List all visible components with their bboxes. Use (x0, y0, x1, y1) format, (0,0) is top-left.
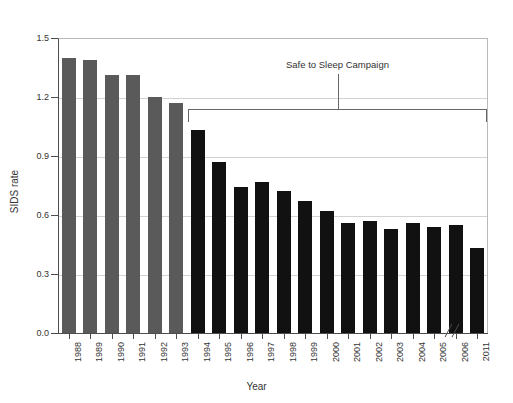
x-tick-mark (112, 333, 113, 339)
x-tick-label: 1997 (266, 342, 276, 362)
x-tick-mark (327, 333, 328, 339)
bar (62, 58, 76, 333)
x-tick-label: 2001 (352, 342, 362, 362)
y-tick-mark (51, 38, 58, 39)
bar (169, 103, 183, 333)
gridline (59, 216, 487, 217)
bar (148, 97, 162, 333)
x-tick-label: 1993 (180, 342, 190, 362)
x-tick-label: 2005 (438, 342, 448, 362)
bar (470, 248, 484, 333)
y-tick-label: 1.5 (5, 33, 49, 43)
x-tick-mark (370, 333, 371, 339)
x-tick-label: 1991 (137, 342, 147, 362)
y-tick-label: 0.0 (5, 328, 49, 338)
bar (320, 211, 334, 333)
x-tick-mark (284, 333, 285, 339)
x-tick-mark (69, 333, 70, 339)
x-tick-label: 2004 (417, 342, 427, 362)
bar (341, 223, 355, 333)
x-tick-mark (241, 333, 242, 339)
gridline (59, 98, 487, 99)
x-tick-label: 2003 (395, 342, 405, 362)
campaign-annotation-stem (338, 74, 339, 109)
x-tick-mark (176, 333, 177, 339)
x-tick-label: 1990 (116, 342, 126, 362)
x-tick-label: 1988 (73, 342, 83, 362)
bar (105, 75, 119, 333)
caption-remnant (10, 0, 410, 5)
bar (449, 225, 463, 333)
x-tick-label: 1995 (223, 342, 233, 362)
y-axis-label: SIDS rate (9, 142, 20, 242)
gridline (59, 157, 487, 158)
x-tick-mark (133, 333, 134, 339)
x-tick-label: 2002 (374, 342, 384, 362)
bar (83, 60, 97, 333)
y-tick-mark (51, 156, 58, 157)
bar (384, 229, 398, 333)
y-tick-label: 1.2 (5, 92, 49, 102)
y-tick-mark (51, 333, 58, 334)
x-tick-mark (348, 333, 349, 339)
x-tick-label: 1994 (202, 342, 212, 362)
bar (406, 223, 420, 333)
campaign-annotation-label: Safe to Sleep Campaign (213, 59, 463, 70)
x-tick-label: 1998 (288, 342, 298, 362)
x-tick-mark (155, 333, 156, 339)
x-tick-label: 1992 (159, 342, 169, 362)
y-tick-mark (51, 274, 58, 275)
y-tick-mark (51, 97, 58, 98)
bar (255, 182, 269, 333)
x-tick-mark (413, 333, 414, 339)
x-tick-label: 1999 (309, 342, 319, 362)
bar (363, 221, 377, 333)
bar (298, 201, 312, 333)
bar (126, 75, 140, 333)
x-tick-mark (219, 333, 220, 339)
bar (191, 130, 205, 333)
x-tick-label: 1989 (94, 342, 104, 362)
x-tick-label: 2011 (481, 342, 491, 361)
x-tick-mark (391, 333, 392, 339)
bar (212, 162, 226, 333)
sids-rate-bar-chart: 0.00.30.60.91.21.5 SIDS rate 19881989199… (0, 0, 513, 403)
bar (427, 227, 441, 333)
campaign-annotation-bracket (188, 109, 488, 122)
x-tick-mark (305, 333, 306, 339)
x-tick-label: 2000 (331, 342, 341, 362)
bar (234, 187, 248, 333)
bar (277, 191, 291, 333)
x-tick-mark (262, 333, 263, 339)
x-tick-mark (477, 333, 478, 339)
x-tick-mark (434, 333, 435, 339)
x-axis-line (58, 333, 488, 334)
x-axis-label: Year (0, 381, 513, 392)
gridline (59, 275, 487, 276)
x-tick-mark (198, 333, 199, 339)
plot-area (58, 38, 488, 333)
axis-break-icon (444, 322, 466, 340)
x-tick-label: 1996 (245, 342, 255, 362)
x-tick-label: 2006 (460, 342, 470, 362)
y-tick-mark (51, 215, 58, 216)
y-tick-label: 0.3 (5, 269, 49, 279)
x-tick-mark (90, 333, 91, 339)
